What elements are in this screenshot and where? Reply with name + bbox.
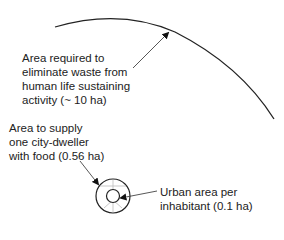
urban-area-circle xyxy=(107,190,120,203)
label-line: human life sustaining xyxy=(22,79,130,93)
label-line: activity (~ 10 ha) xyxy=(22,93,130,107)
urban-area-arrow xyxy=(121,191,157,198)
waste-area-arrow xyxy=(133,33,168,68)
label-line: with food (0.56 ha) xyxy=(9,149,104,163)
label-line: eliminate waste from xyxy=(22,65,130,79)
urban-area-label: Urban area per inhabitant (0.1 ha) xyxy=(160,185,253,213)
label-line: one city-dweller xyxy=(9,135,104,149)
food-area-label: Area to supply one city-dweller with foo… xyxy=(9,121,104,163)
label-line: inhabitant (0.1 ha) xyxy=(160,199,253,213)
label-line: Urban area per xyxy=(160,185,253,199)
food-area-arrow xyxy=(80,161,98,184)
label-line: Area required to xyxy=(22,51,130,65)
label-line: Area to supply xyxy=(9,121,104,135)
waste-area-label: Area required to eliminate waste from hu… xyxy=(22,51,130,107)
